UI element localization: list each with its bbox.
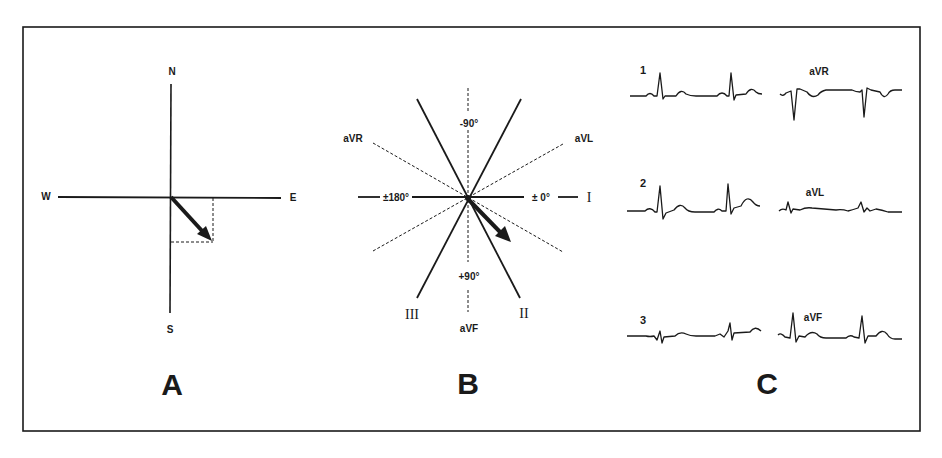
label-minus-90: -90°: [460, 118, 478, 129]
panel-c-ecg-traces: [627, 73, 902, 343]
label-plus-minus-180: ±180°: [383, 192, 409, 203]
ecg-trace-lead-3: [627, 323, 761, 343]
panel-a-title: A: [161, 368, 183, 401]
trace-label-3: 3: [640, 314, 646, 326]
ecg-trace-avl: [779, 202, 902, 213]
trace-label-avf: aVF: [804, 312, 822, 323]
compass-west-label: W: [41, 191, 51, 202]
ecg-trace-lead-2: [627, 184, 760, 219]
trace-label-avl: aVL: [806, 187, 824, 198]
panel-a-compass: N S W E A: [41, 66, 296, 401]
label-lead-ii: II: [519, 306, 529, 321]
panel-b-hexaxial: -90° +90° ±180° ± 0° aVR aVL aVF I II II…: [343, 88, 593, 400]
label-plus-minus-0: ± 0°: [532, 192, 550, 203]
trace-label-2: 2: [640, 177, 646, 189]
figure-canvas: N S W E A -90° +90° ±180° ± 0° aVR aVL a…: [0, 0, 942, 458]
ecg-trace-avf: [778, 313, 902, 343]
label-avl: aVL: [575, 133, 593, 144]
ecg-trace-lead-1: [630, 73, 762, 100]
compass-north-label: N: [168, 66, 175, 77]
trace-label-1: 1: [640, 64, 646, 76]
panel-b-title: B: [457, 367, 479, 400]
label-avf: aVF: [460, 323, 478, 334]
compass-south-label: S: [167, 324, 174, 335]
ecg-trace-avr: [780, 88, 902, 120]
panel-c-title: C: [756, 367, 778, 400]
trace-label-avr: aVR: [809, 66, 829, 77]
label-plus-90: +90°: [459, 271, 480, 282]
compass-east-label: E: [290, 192, 297, 203]
label-avr: aVR: [343, 133, 363, 144]
label-lead-i: I: [587, 190, 592, 205]
west-east-axis: [58, 197, 281, 198]
vector-arrow-shaft: [171, 197, 204, 233]
label-lead-iii: III: [405, 307, 419, 322]
